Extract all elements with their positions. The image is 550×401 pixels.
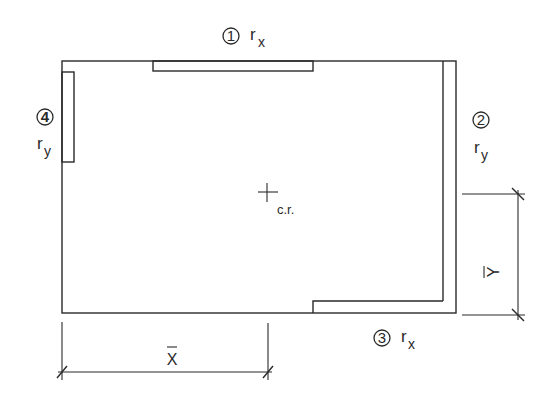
y-bar-label: Y [485,266,502,277]
dimension-x-bar: X [57,322,273,380]
plan-diagram: 1 r x 4 r y 2 r y 3 x r x c.r. Y [0,0,550,401]
cr-label: c.r. [277,202,294,217]
svg-text:x: x [258,34,265,50]
svg-text:y: y [481,147,488,163]
wall-number: 2 [477,111,485,128]
svg-text:r: r [250,25,256,44]
floor-outline [62,61,456,313]
wall-2-label: 2 r y [473,111,489,163]
x-bar-label: X [167,351,178,368]
svg-text:x: x [408,336,415,352]
svg-text:r: r [474,138,480,157]
dimension-y-bar: Y [462,188,525,321]
wall-1 [153,61,313,71]
wall-4-label: 4 r y [37,108,53,159]
center-of-rigidity: c.r. [258,183,294,217]
wall-3-label: 3 x r x [374,327,415,352]
svg-text:y: y [44,143,51,159]
wall-number: 3 [378,329,386,346]
wall-3 [313,301,443,313]
wall-number: 4 [41,108,50,125]
svg-text:r: r [401,327,407,346]
svg-text:r: r [37,134,43,153]
wall-4 [62,72,74,162]
wall-1-label: 1 r x [223,25,265,50]
wall-number: 1 [227,27,235,44]
